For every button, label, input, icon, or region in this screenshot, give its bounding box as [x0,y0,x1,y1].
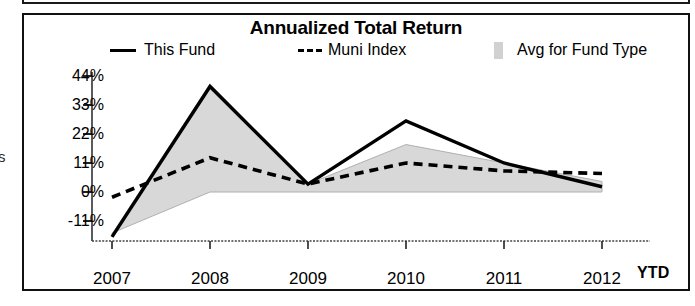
margin-text-artifact: s [0,148,6,165]
x-axis-label: 2012 [583,269,621,289]
chart-panel: Annualized Total Return This Fund Muni I… [22,13,690,291]
y-axis-label: 0% [81,183,104,201]
x-axis-label: 2010 [387,269,425,289]
x-axis-label: 2011 [486,269,523,289]
x-axis-ytd-label: YTD [637,264,670,282]
y-axis-tick-labels: 44%33%22%11%0%-11% [32,15,104,293]
y-axis-label: -11% [68,212,104,230]
x-axis-label: 2007 [93,269,131,289]
y-axis-label: 22% [72,125,104,143]
x-axis-label: 2008 [191,269,229,289]
x-axis-label: 2009 [289,269,327,289]
plot-area [24,15,692,293]
y-axis-label: 11% [73,154,104,172]
plot-svg [24,15,692,293]
y-axis-label: 33% [72,96,104,114]
page-element-above-chart [22,0,690,4]
series-band-avg-for-fund-type [112,84,602,234]
y-axis-label: 44% [72,67,104,85]
x-axis-tick-labels: 200720082009201020112012 [24,261,692,287]
